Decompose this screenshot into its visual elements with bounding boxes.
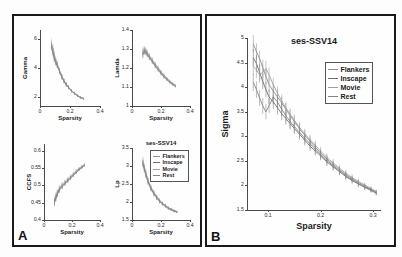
x-ticklabel-ccfs: 0.2 <box>63 223 81 228</box>
series-flankers <box>51 44 83 99</box>
x-ticklabel-gamma: 0.4 <box>91 109 109 114</box>
legend-swatch-inscape <box>328 78 338 79</box>
x-ticklabel-lp: 0.4 <box>181 223 199 228</box>
y-tick-lp <box>130 148 132 149</box>
legend-item-rest: Rest <box>328 92 369 101</box>
y-ticklabel-gamma: 2 <box>20 94 37 99</box>
legend-item-flankers: Flankers <box>328 65 369 74</box>
legend-swatch-inscape <box>153 162 160 163</box>
x-ticklabel-lamda: 0 <box>123 109 141 114</box>
y-ticklabel-sigma: 3 <box>227 133 244 138</box>
y-axis-title-ccfs: CCFS <box>26 174 32 190</box>
x-ticklabel-ccfs: 0 <box>35 223 53 228</box>
legend-swatch-movie <box>328 87 338 88</box>
x-axis-title-sigma: Sparsity <box>247 222 381 231</box>
y-axis-title-lamda: Lamda <box>114 58 120 77</box>
y-ticklabel-sigma: 5 <box>227 35 244 40</box>
panel-a: 24600.20.4SparsityGamma 11.11.21.31.400.… <box>12 14 202 247</box>
y-tick-ccfs <box>42 185 44 186</box>
y-tick-sigma <box>245 161 247 162</box>
legend-swatch-rest <box>153 175 160 176</box>
y-ticklabel-ccfs: 0.45 <box>24 200 41 205</box>
legend-label: Rest <box>163 173 175 178</box>
y-ticklabel-lamda: 1.4 <box>112 27 129 32</box>
y-tick-sigma <box>245 210 247 211</box>
series-rest <box>51 47 83 99</box>
y-ticklabel-sigma: 3.5 <box>227 109 244 114</box>
y-ticklabel-lamda: 1 <box>112 103 129 108</box>
series-movie <box>55 164 85 200</box>
x-axis-title-gamma: Sparsity <box>40 115 100 121</box>
y-axis-line-gamma <box>40 30 41 106</box>
x-ticklabel-gamma: 0 <box>31 109 49 114</box>
y-tick-sigma <box>245 63 247 64</box>
y-axis-title-sigma: Sigma <box>221 110 230 137</box>
y-tick-sigma <box>245 112 247 113</box>
y-tick-lp <box>130 184 132 185</box>
subplot-sigma: 1.522.533.544.550.10.20.3SparsitySigmase… <box>213 20 389 236</box>
legend-label: Inscape <box>163 160 183 165</box>
y-ticklabel-ccfs: 0.4 <box>24 217 41 222</box>
plot-area-sigma: 1.522.533.544.550.10.20.3SparsitySigmase… <box>213 20 389 236</box>
panel-b: 1.522.533.544.550.10.20.3SparsitySigmase… <box>205 14 396 247</box>
y-tick-gamma <box>38 97 40 98</box>
legend-swatch-flankers <box>153 156 160 157</box>
plot-area-ccfs: 0.40.450.50.550.600.20.4SparsityCCFS <box>20 134 104 238</box>
y-ticklabel-ccfs: 0.6 <box>24 148 41 153</box>
y-ticklabel-lp: 2 <box>112 199 129 204</box>
subplot-gamma: 24600.20.4SparsityGamma <box>20 20 104 124</box>
series-movie <box>143 49 176 85</box>
series-inscape <box>55 166 85 203</box>
x-ticklabel-ccfs: 0.4 <box>91 223 109 228</box>
subplot-ccfs: 0.40.450.50.550.600.20.4SparsityCCFS <box>20 134 104 238</box>
legend-item-inscape: Inscape <box>328 74 369 83</box>
y-tick-ccfs <box>42 151 44 152</box>
series-inscape <box>51 46 83 99</box>
plot-title-sigma: ses-SSV14 <box>247 36 381 46</box>
y-ticklabel-lamda: 1.3 <box>112 46 129 51</box>
x-ticklabel-sigma: 0.2 <box>312 213 330 218</box>
y-tick-sigma <box>245 136 247 137</box>
y-tick-ccfs <box>42 203 44 204</box>
panel-a-letter: A <box>18 228 27 243</box>
legend-swatch-flankers <box>328 69 338 70</box>
y-ticklabel-sigma: 2 <box>227 182 244 187</box>
legend-swatch-rest <box>328 96 338 97</box>
y-tick-lamda <box>130 30 132 31</box>
y-ticklabel-sigma: 1.5 <box>227 207 244 212</box>
y-tick-lp <box>130 202 132 203</box>
y-tick-ccfs <box>42 168 44 169</box>
x-axis-title-lamda: Sparsity <box>132 115 190 121</box>
series-flankers <box>55 165 85 201</box>
subplot-lamda: 11.11.21.31.400.20.4SparsityLamda <box>110 20 194 124</box>
y-tick-sigma <box>245 185 247 186</box>
y-tick-lamda <box>130 49 132 50</box>
panel-b-letter: B <box>211 229 220 244</box>
y-axis-title-lp: Lp <box>114 180 120 187</box>
y-tick-lamda <box>130 68 132 69</box>
figure-root: 24600.20.4SparsityGamma 11.11.21.31.400.… <box>0 0 402 257</box>
legend-item-rest: Rest <box>153 173 185 180</box>
y-axis-line-sigma <box>247 38 248 210</box>
legend-label: Flankers <box>341 66 370 73</box>
y-axis-title-gamma: Gamma <box>22 57 28 79</box>
y-ticklabel-lamda: 1.1 <box>112 84 129 89</box>
y-tick-lamda <box>130 87 132 88</box>
y-tick-lp <box>130 166 132 167</box>
plot-area-lamda: 11.11.21.31.400.20.4SparsityLamda <box>110 20 194 124</box>
plot-area-lp: 1.522.533.500.20.4SparsityLpses-SSV14Fla… <box>110 134 194 238</box>
series-rest <box>143 52 176 87</box>
x-ticklabel-lamda: 0.4 <box>181 109 199 114</box>
x-ticklabel-sigma: 0.3 <box>364 213 382 218</box>
y-tick-sigma <box>245 87 247 88</box>
plot-title-lp: ses-SSV14 <box>132 140 190 146</box>
y-ticklabel-lp: 3 <box>112 163 129 168</box>
x-ticklabel-lp: 0.2 <box>152 223 170 228</box>
data-curves-sigma <box>213 20 389 236</box>
x-ticklabel-sigma: 0.1 <box>259 213 277 218</box>
legend-label: Rest <box>341 93 356 100</box>
y-axis-line-ccfs <box>44 144 45 220</box>
legend-label: Inscape <box>341 75 367 82</box>
legend-swatch-movie <box>153 169 160 170</box>
y-ticklabel-gamma: 6 <box>20 36 37 41</box>
